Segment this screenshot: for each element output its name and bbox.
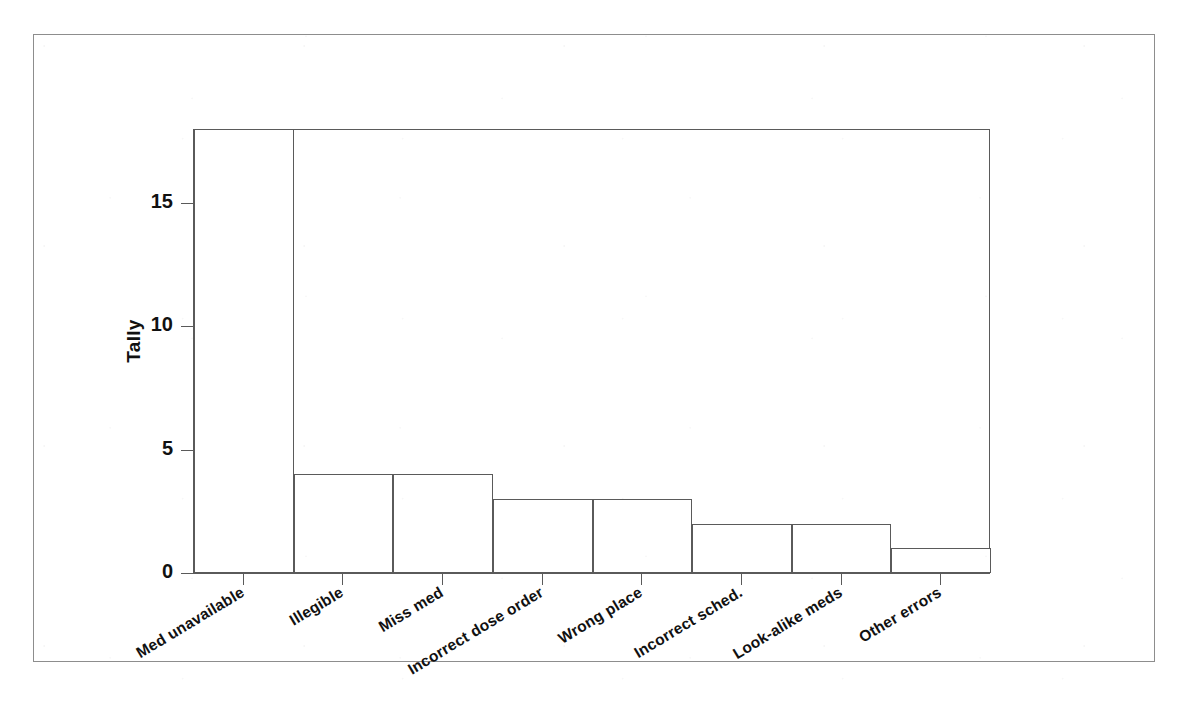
- x-tick-mark: [542, 574, 543, 585]
- x-tick-mark: [342, 574, 343, 585]
- x-tick-mark: [841, 574, 842, 585]
- tally-bar-chart: Tally 051015 Med unavailableIllegibleMis…: [0, 0, 1186, 704]
- scanned-page: Tally 051015 Med unavailableIllegibleMis…: [0, 0, 1186, 704]
- y-tick-mark: [181, 450, 193, 451]
- y-tick-label: 0: [109, 560, 173, 583]
- bar: [692, 524, 792, 573]
- y-tick-label: 15: [109, 190, 173, 213]
- y-tick-label: 5: [109, 437, 173, 460]
- bar: [792, 524, 892, 573]
- x-tick-mark: [741, 574, 742, 585]
- y-tick-mark: [181, 203, 193, 204]
- x-tick-mark: [641, 574, 642, 585]
- y-tick-mark: [181, 326, 193, 327]
- plot-frame: [193, 129, 990, 574]
- bar: [194, 129, 294, 573]
- x-axis-line: [193, 573, 990, 574]
- bar: [393, 474, 493, 573]
- y-tick-mark: [181, 573, 193, 574]
- y-axis-line: [193, 129, 194, 574]
- y-tick-label: 10: [109, 313, 173, 336]
- bar: [294, 474, 394, 573]
- bar: [891, 548, 991, 573]
- bar: [493, 499, 593, 573]
- x-tick-mark: [940, 574, 941, 585]
- x-tick-label: Med unavailable: [0, 583, 248, 704]
- bar: [593, 499, 693, 573]
- x-tick-mark: [442, 574, 443, 585]
- x-tick-mark: [243, 574, 244, 585]
